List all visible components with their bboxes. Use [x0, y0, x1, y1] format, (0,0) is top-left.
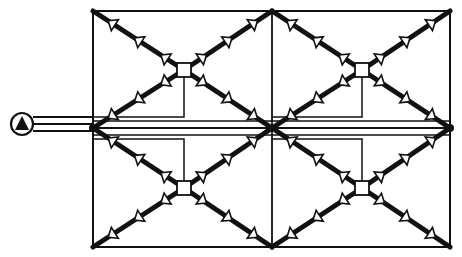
pump-icon: [11, 113, 33, 135]
hub-top-left: [177, 63, 191, 77]
hub-bottom-right: [355, 181, 369, 195]
hub-top-right: [355, 63, 369, 77]
piping-diagram: [0, 0, 462, 257]
diagram-canvas: [0, 0, 462, 257]
hub-bottom-left: [177, 181, 191, 195]
junction-dot: [446, 124, 454, 132]
junction-dot: [89, 124, 97, 132]
junction-dot: [268, 124, 276, 132]
